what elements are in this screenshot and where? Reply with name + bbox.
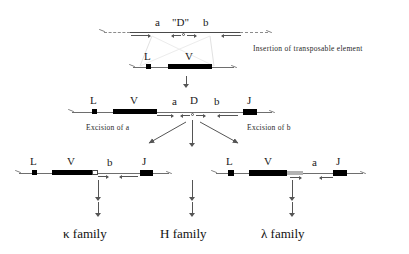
row2-label-V: V: [185, 51, 193, 62]
row3-label-L: L: [90, 95, 97, 106]
row5-v-exon-box: [249, 170, 287, 176]
arrow-kappa-upper: [92, 180, 104, 202]
row5-right-repeat-arrow: [320, 176, 333, 180]
arrow-lambda-upper: [286, 180, 298, 202]
row5-left-end-tick: [211, 170, 217, 173]
row2-label-L: L: [144, 51, 151, 62]
row3-label-V: V: [130, 95, 138, 106]
outcome-label-lambda: λ family: [261, 227, 305, 240]
row5-label-J: J: [336, 156, 340, 167]
row3-left-end-tick: [68, 109, 74, 112]
arrow-center-h-branch: [186, 120, 198, 148]
arrow-kappa-lower: [92, 202, 104, 218]
arrow-heavy-lower: [186, 202, 198, 218]
branch-arrows: [0, 118, 409, 150]
row5-leader-exon-box: [228, 170, 234, 176]
row5-label-L: L: [226, 156, 233, 167]
row3-label-D: D: [190, 95, 198, 106]
row5-label-a: a: [312, 157, 317, 168]
row2-leader-exon-box: [146, 64, 151, 69]
arrow-lambda-lower: [286, 202, 298, 218]
row3-label-b: b: [214, 96, 220, 107]
row3-backbone: [72, 112, 272, 113]
row2-left-end-tick: [129, 64, 135, 67]
arrow-insertion-down: [180, 76, 192, 89]
diagram-canvas: a "D" b L V Insertion of transposable el…: [0, 0, 409, 254]
row3-leader-exon-box: [92, 109, 97, 114]
outcome-label-kappa: κ family: [63, 227, 107, 240]
row3-label-J: J: [247, 95, 251, 106]
row5-j-exon-box: [333, 170, 347, 176]
row3-v-exon-box: [113, 109, 157, 114]
row-lambda-product: L V a J: [0, 152, 409, 182]
row3-label-a: a: [172, 96, 177, 107]
row3-j-exon-box: [243, 109, 257, 115]
row5-label-V: V: [264, 156, 272, 167]
caption-insertion: Insertion of transposable element: [253, 45, 363, 53]
arrow-heavy-upper: [186, 180, 198, 202]
row3-d-center-ring: [191, 113, 194, 116]
row2-v-exon-box: [168, 64, 212, 69]
row5-residual-repeat-box: [287, 171, 303, 175]
outcome-label-heavy: H family: [160, 227, 207, 240]
